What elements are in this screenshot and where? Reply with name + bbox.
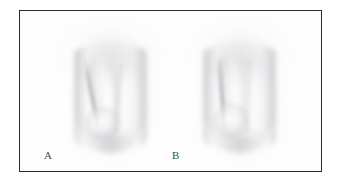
- figure-root: A B: [0, 0, 341, 188]
- specimen-b-left-rim: [203, 49, 213, 147]
- figure-frame: A B: [19, 10, 322, 172]
- photograph-plate: A B: [20, 11, 321, 171]
- panel-label-b: B: [172, 150, 180, 161]
- specimen-a-base-shadow: [80, 131, 142, 157]
- specimen-a-right-rim: [137, 49, 147, 147]
- specimen-a: [63, 19, 159, 161]
- specimen-a-left-rim: [74, 49, 84, 147]
- specimen-b: [192, 19, 288, 161]
- panel-label-a: A: [44, 150, 52, 161]
- specimen-b-right-rim: [266, 49, 276, 147]
- specimen-b-base-shadow: [209, 131, 271, 157]
